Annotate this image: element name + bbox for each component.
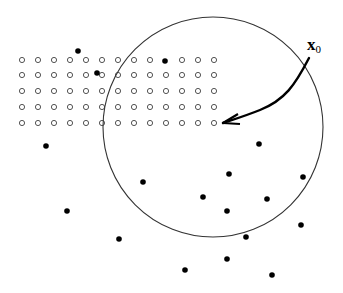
open-point xyxy=(131,88,136,93)
open-point xyxy=(115,88,120,93)
open-point xyxy=(83,104,88,109)
filled-points xyxy=(43,48,306,278)
open-point xyxy=(195,120,200,125)
open-point xyxy=(51,57,56,62)
open-point xyxy=(19,104,24,109)
open-point xyxy=(195,57,200,62)
open-point xyxy=(147,57,152,62)
arrow-curve xyxy=(223,58,309,123)
open-point xyxy=(67,72,72,77)
open-point xyxy=(19,120,24,125)
open-point xyxy=(99,120,104,125)
open-point xyxy=(195,88,200,93)
open-point xyxy=(195,104,200,109)
open-point xyxy=(179,120,184,125)
x0-label-subscript: 0 xyxy=(316,43,322,55)
filled-point xyxy=(64,208,70,214)
open-point xyxy=(67,88,72,93)
open-point xyxy=(83,120,88,125)
diagram-canvas xyxy=(0,0,343,293)
filled-point xyxy=(298,222,304,228)
open-point xyxy=(163,120,168,125)
open-point xyxy=(51,104,56,109)
open-point xyxy=(19,57,24,62)
filled-point xyxy=(224,256,230,262)
open-point xyxy=(19,88,24,93)
open-point xyxy=(211,120,216,125)
open-point xyxy=(179,88,184,93)
filled-point xyxy=(200,194,206,200)
filled-point xyxy=(116,236,122,242)
open-point xyxy=(147,72,152,77)
open-point xyxy=(211,88,216,93)
open-point xyxy=(147,104,152,109)
open-point xyxy=(83,88,88,93)
open-point xyxy=(19,72,24,77)
filled-point xyxy=(162,58,168,64)
filled-point xyxy=(224,208,230,214)
open-point xyxy=(35,88,40,93)
filled-point xyxy=(269,272,275,278)
open-point xyxy=(67,104,72,109)
filled-point xyxy=(182,267,188,273)
open-point xyxy=(179,57,184,62)
filled-point xyxy=(243,234,249,240)
open-point xyxy=(147,88,152,93)
open-point xyxy=(83,72,88,77)
open-point xyxy=(131,104,136,109)
open-point xyxy=(115,104,120,109)
open-point xyxy=(51,72,56,77)
open-point xyxy=(179,72,184,77)
open-point xyxy=(163,104,168,109)
x0-label-main: x xyxy=(307,35,316,54)
open-point xyxy=(147,120,152,125)
filled-point xyxy=(256,141,262,147)
open-point xyxy=(131,120,136,125)
open-point xyxy=(115,57,120,62)
open-point xyxy=(99,72,104,77)
open-point xyxy=(131,57,136,62)
open-point xyxy=(67,120,72,125)
filled-point xyxy=(140,179,146,185)
open-point xyxy=(211,57,216,62)
open-point xyxy=(131,72,136,77)
open-point xyxy=(163,88,168,93)
open-point xyxy=(35,120,40,125)
filled-point xyxy=(94,70,100,76)
open-point xyxy=(35,57,40,62)
open-point xyxy=(115,120,120,125)
open-point xyxy=(211,72,216,77)
open-point xyxy=(67,57,72,62)
open-point xyxy=(179,104,184,109)
open-point xyxy=(35,104,40,109)
open-point xyxy=(195,72,200,77)
open-point-grid xyxy=(19,57,216,125)
filled-point xyxy=(75,48,81,54)
filled-point xyxy=(300,174,306,180)
filled-point xyxy=(43,143,49,149)
open-point xyxy=(211,104,216,109)
open-point xyxy=(35,72,40,77)
open-point xyxy=(99,57,104,62)
filled-point xyxy=(226,171,232,177)
open-point xyxy=(83,57,88,62)
filled-point xyxy=(264,196,270,202)
open-point xyxy=(99,104,104,109)
open-point xyxy=(163,72,168,77)
open-point xyxy=(99,88,104,93)
x0-label: x0 xyxy=(307,36,321,55)
open-point xyxy=(51,88,56,93)
neighborhood-circle xyxy=(103,17,323,237)
open-point xyxy=(51,120,56,125)
figure: x0 xyxy=(0,0,343,293)
